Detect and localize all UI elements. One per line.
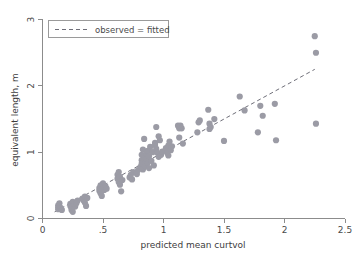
- x-tick-label: 2.5: [338, 225, 352, 235]
- scatter-point: [313, 121, 319, 127]
- x-tick-label: 1: [161, 225, 167, 235]
- scatter-point: [194, 129, 200, 135]
- y-tick-label: 2: [26, 83, 36, 89]
- scatter-point: [157, 137, 163, 143]
- scatter-point: [118, 188, 124, 194]
- x-axis-ticks: [43, 219, 346, 224]
- scatter-plot-figure: 0 1 2 3 0 .5 1 1.5 2 2.5 predicted mean …: [0, 0, 356, 263]
- scatter-point: [197, 117, 203, 123]
- scatter-point: [208, 124, 214, 130]
- scatter-point: [99, 193, 105, 199]
- scatter-point: [257, 103, 263, 109]
- scatter-point: [83, 203, 89, 209]
- chart-canvas: 0 1 2 3 0 .5 1 1.5 2 2.5 predicted mean …: [0, 0, 356, 263]
- scatter-point: [237, 93, 243, 99]
- scatter-point: [313, 50, 319, 56]
- scatter-points-layer: [55, 33, 319, 215]
- scatter-point: [273, 137, 279, 143]
- scatter-point: [70, 209, 76, 215]
- scatter-point: [221, 138, 227, 144]
- x-axis-title: predicted mean curtvol: [140, 240, 245, 250]
- x-tick-label: 2: [282, 225, 288, 235]
- scatter-point: [272, 101, 278, 107]
- scatter-point: [241, 107, 247, 113]
- x-tick-labels: 0 .5 1 1.5 2 2.5: [40, 225, 353, 235]
- scatter-point: [180, 140, 186, 146]
- x-tick-label: 0: [40, 225, 46, 235]
- y-tick-label: 3: [26, 17, 36, 23]
- y-tick-label: 0: [26, 215, 36, 221]
- scatter-point: [255, 129, 261, 135]
- scatter-point: [59, 207, 65, 213]
- scatter-point: [179, 125, 185, 131]
- scatter-point: [205, 107, 211, 113]
- axis-lines: [43, 20, 346, 219]
- scatter-point: [151, 162, 157, 168]
- y-axis-ticks: [38, 20, 43, 219]
- x-tick-label: 1.5: [217, 225, 231, 235]
- scatter-point: [119, 177, 125, 183]
- y-tick-label: 1: [26, 149, 36, 155]
- scatter-point: [165, 152, 171, 158]
- scatter-point: [153, 124, 159, 130]
- scatter-point: [104, 186, 110, 192]
- scatter-point: [141, 136, 147, 142]
- scatter-point: [260, 113, 266, 119]
- scatter-point: [169, 143, 175, 149]
- x-tick-label: .5: [99, 225, 108, 235]
- y-tick-labels: 0 1 2 3: [26, 17, 36, 222]
- y-axis-title: equivalent length, m: [10, 73, 20, 167]
- scatter-point: [176, 135, 182, 141]
- scatter-point: [211, 116, 217, 122]
- legend: observed = fitted: [49, 21, 170, 38]
- scatter-point: [129, 176, 135, 182]
- legend-label: observed = fitted: [95, 25, 170, 35]
- scatter-point: [312, 33, 318, 39]
- scatter-point: [84, 195, 90, 201]
